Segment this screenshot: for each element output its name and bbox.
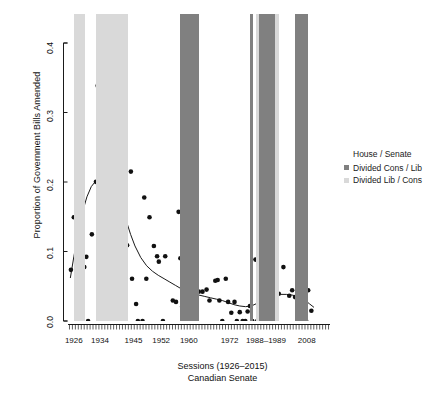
data-point <box>155 254 160 259</box>
data-point <box>142 195 147 200</box>
shaded-band <box>96 14 128 321</box>
data-point <box>204 287 209 292</box>
legend-item-divided-lib-cons: Divided Lib / Cons <box>344 174 422 187</box>
x-tick-label: 2008 <box>282 336 332 345</box>
y-tick-label-1: 0.1 <box>45 241 55 265</box>
data-point <box>287 293 292 298</box>
shaded-band <box>295 14 308 321</box>
legend-label-divided-cons-lib: Divided Cons / Lib <box>353 162 422 175</box>
shaded-band <box>180 14 199 321</box>
x-axis <box>68 321 334 333</box>
y-tick-label-3: 0.3 <box>45 104 55 128</box>
data-point <box>226 300 231 305</box>
data-point <box>309 308 314 313</box>
x-axis-title: Sessions (1926–2015) Canadian Senate <box>0 360 445 384</box>
y-tick-label-0: 0.0 <box>45 310 55 334</box>
legend-title: House / Senate <box>353 148 422 161</box>
data-point <box>157 259 162 264</box>
data-point <box>237 310 242 315</box>
x-axis-title-line1: Sessions (1926–2015) <box>0 360 445 372</box>
shaded-band <box>259 14 275 321</box>
y-tick-label-2: 0.2 <box>45 173 55 197</box>
legend-swatch-divided-cons-lib <box>344 165 349 170</box>
data-point <box>229 311 234 316</box>
plot-area <box>68 14 330 321</box>
data-point <box>163 254 168 259</box>
data-point <box>129 169 134 174</box>
data-point <box>144 276 149 281</box>
data-point <box>281 265 286 270</box>
legend-swatch-divided-lib-cons <box>344 178 349 183</box>
legend-item-divided-cons-lib: Divided Cons / Lib <box>344 162 422 175</box>
x-axis-title-line2: Canadian Senate <box>0 372 445 384</box>
y-axis <box>58 36 70 330</box>
data-point <box>200 289 205 294</box>
chart-canvas: Proportion of Government Bills Amended 0… <box>0 0 445 405</box>
legend: House / Senate Divided Cons / Lib Divide… <box>344 148 422 187</box>
data-point <box>215 278 220 283</box>
data-point <box>134 302 139 307</box>
data-point <box>90 232 95 237</box>
y-tick-label-4: 0.4 <box>45 36 55 60</box>
data-point <box>217 298 222 303</box>
shaded-band <box>74 14 86 321</box>
data-point <box>290 288 295 293</box>
data-point <box>207 298 212 303</box>
data-point <box>147 215 152 220</box>
data-point <box>223 276 228 281</box>
data-point <box>232 300 237 305</box>
data-point <box>130 276 135 281</box>
legend-label-divided-lib-cons: Divided Lib / Cons <box>353 174 422 187</box>
shaded-band <box>250 14 253 321</box>
data-point <box>174 300 179 305</box>
data-point <box>152 244 157 249</box>
shaded-band <box>275 14 279 321</box>
y-axis-title: Proportion of Government Bills Amended <box>32 40 42 270</box>
